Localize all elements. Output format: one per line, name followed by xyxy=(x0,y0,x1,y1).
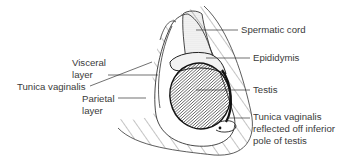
label-tunica-vaginalis: Tunica vaginalis xyxy=(17,81,85,92)
label-testis: Testis xyxy=(253,84,278,95)
label-tunica-reflected-3: pole of testis xyxy=(253,135,307,146)
label-tunica-reflected-2: reflected off inferior xyxy=(253,123,335,134)
label-epididymis: Epididymis xyxy=(253,52,299,63)
label-visceral-2: layer xyxy=(72,69,93,80)
label-visceral-1: Visceral xyxy=(72,57,106,68)
label-parietal-2: layer xyxy=(82,105,103,116)
label-tunica-reflected-1: Tunica vaginalis xyxy=(253,111,321,122)
label-parietal-1: Parietal xyxy=(82,93,115,104)
label-spermatic-cord: Spermatic cord xyxy=(241,24,306,35)
